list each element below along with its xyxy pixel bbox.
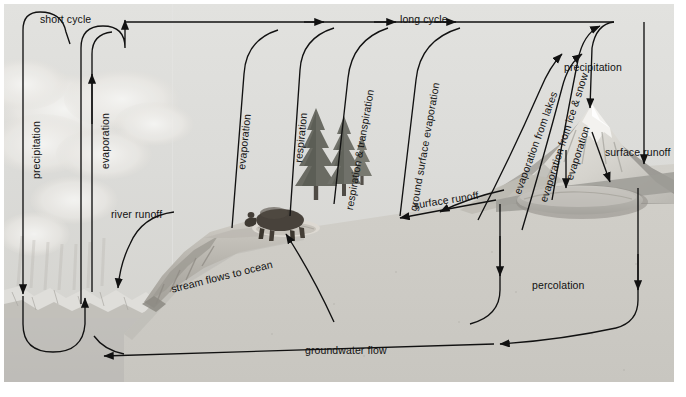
label-river-runoff: river runoff bbox=[111, 209, 162, 220]
label-precipitation-mountain: precipitation bbox=[564, 62, 622, 73]
label-groundwater-flow: groundwater flow bbox=[305, 345, 387, 356]
water-cycle-diagram: short cycle long cycle precipitation eva… bbox=[0, 0, 686, 397]
label-percolation: percolation bbox=[532, 280, 584, 291]
right-page-margin bbox=[674, 0, 686, 397]
label-surface-runoff-mountain: surface runoff bbox=[605, 147, 670, 158]
label-precipitation-ocean: precipitation bbox=[31, 121, 42, 179]
diagram-canvas: short cycle long cycle precipitation eva… bbox=[4, 4, 675, 382]
label-evaporation-ocean: evaporation bbox=[100, 113, 111, 169]
label-long-cycle: long cycle bbox=[400, 14, 448, 25]
bottom-page-margin bbox=[0, 384, 686, 397]
label-short-cycle: short cycle bbox=[40, 14, 91, 25]
lake bbox=[516, 185, 648, 219]
